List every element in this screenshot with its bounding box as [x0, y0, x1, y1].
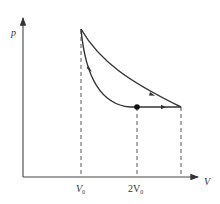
tick-label-2v0: 2V0	[128, 183, 143, 195]
guide-lines	[81, 30, 181, 177]
pv-diagram: p V V0 2V0	[0, 0, 220, 204]
x-axis-label: V	[204, 176, 212, 187]
cycle	[81, 29, 181, 107]
axes	[23, 18, 198, 177]
tick-label-v0: V0	[76, 183, 85, 195]
state-point-dot	[134, 104, 140, 110]
arrow-horizontal-icon	[161, 105, 166, 109]
upper-process-curve	[81, 29, 181, 107]
y-axis-label: p	[10, 27, 16, 38]
